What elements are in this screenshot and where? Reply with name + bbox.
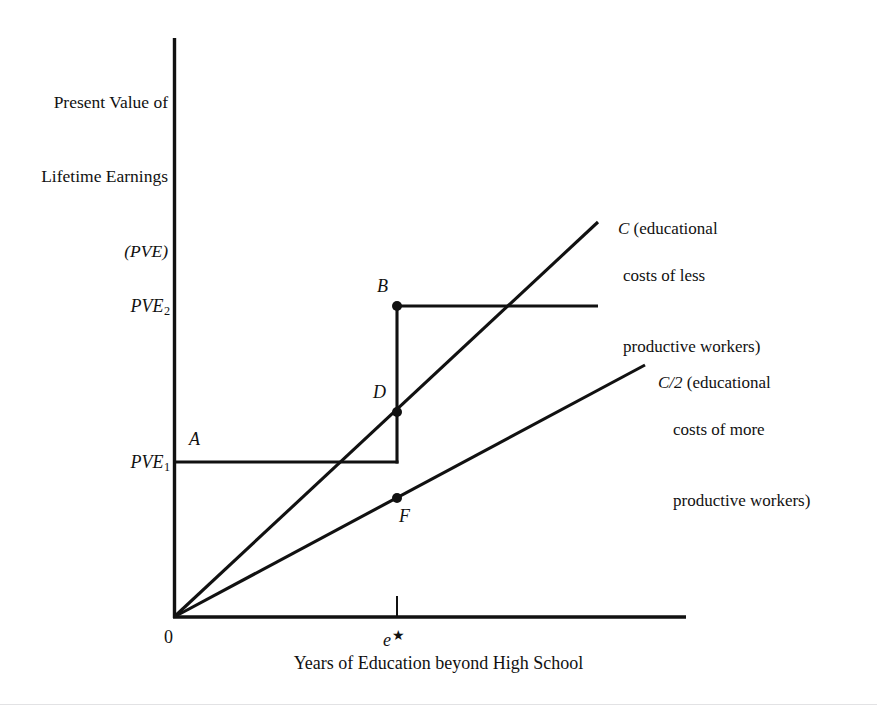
x-axis-caption: Years of Education beyond High School: [0, 652, 877, 675]
curve-annotation-c-symbol: C: [618, 219, 629, 238]
y-axis-label-pve1-subscript: 1: [163, 460, 170, 474]
star-icon: ★: [391, 627, 405, 643]
curve-annotation-c-line-1: (educational: [629, 219, 717, 238]
y-axis-title: Present Value of Lifetime Earnings (PVE): [8, 40, 168, 313]
y-axis-title-line-3: (PVE): [8, 239, 168, 264]
x-axis-origin-label: 0: [164, 626, 173, 649]
y-axis-label-pve2-text: PVE: [130, 296, 163, 316]
y-axis-title-line-1: Present Value of: [8, 90, 168, 115]
y-axis-label-pve1-text: PVE: [130, 452, 163, 472]
point-label-b: B: [377, 275, 388, 298]
point-marker-b: [392, 301, 402, 311]
bottom-divider: [0, 704, 877, 705]
curve-annotation-c-line-2: costs of less: [601, 264, 851, 287]
point-marker-d: [392, 407, 402, 417]
point-label-a: A: [189, 428, 200, 451]
y-axis-label-pve2: PVE2: [104, 295, 170, 320]
curve-annotation-c-half-line-2: costs of more: [641, 418, 873, 441]
y-axis-title-line-2: Lifetime Earnings: [8, 164, 168, 189]
point-label-d: D: [373, 381, 386, 404]
signaling-diagram-figure: Present Value of Lifetime Earnings (PVE)…: [0, 0, 877, 721]
point-marker-f: [392, 493, 402, 503]
curve-annotation-c-half: C/2 (educational costs of more productiv…: [641, 348, 873, 559]
y-axis-label-pve2-subscript: 2: [163, 304, 170, 318]
point-label-f: F: [399, 505, 410, 528]
x-axis-label-e-star: e★: [383, 626, 405, 652]
cost-line-c-half: [174, 365, 645, 617]
curve-annotation-c-half-line-1: (educational: [683, 373, 771, 392]
y-axis-label-pve1: PVE1: [104, 451, 170, 476]
curve-annotation-c-half-symbol: C/2: [658, 373, 683, 392]
curve-annotation-c-half-line-3: productive workers): [641, 489, 873, 512]
x-axis-label-e-star-text: e: [383, 630, 391, 650]
